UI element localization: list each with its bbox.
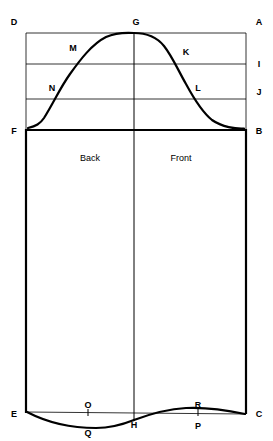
point-label-e: E [11, 409, 17, 419]
point-label-o: O [84, 400, 91, 410]
point-label-d: D [11, 17, 18, 27]
point-label-f: F [11, 126, 17, 136]
point-label-m: M [69, 43, 77, 53]
hem-baseline-ec [26, 412, 246, 414]
pattern-drawing-canvas: Back Front D G A M K I N L J F B O R E C… [0, 0, 273, 441]
region-label-front: Front [170, 153, 192, 163]
pattern-diagram: Back Front D G A M K I N L J F B O R E C… [0, 0, 273, 441]
point-label-h: H [131, 420, 138, 430]
point-label-k: K [183, 47, 190, 57]
point-label-b: B [256, 126, 263, 136]
point-label-j: J [256, 87, 261, 97]
point-label-i: I [258, 59, 261, 69]
point-label-c: C [256, 409, 263, 419]
point-label-l: L [195, 83, 201, 93]
point-label-n: N [49, 83, 56, 93]
cap-curve-left-back [28, 33, 134, 128]
point-label-g: G [132, 17, 139, 27]
region-label-back: Back [80, 153, 101, 163]
point-label-r: R [195, 400, 202, 410]
point-label-a: A [256, 17, 263, 27]
point-label-p: P [195, 421, 201, 431]
point-label-q: Q [84, 428, 91, 438]
hem-curve-left-back [27, 412, 134, 428]
